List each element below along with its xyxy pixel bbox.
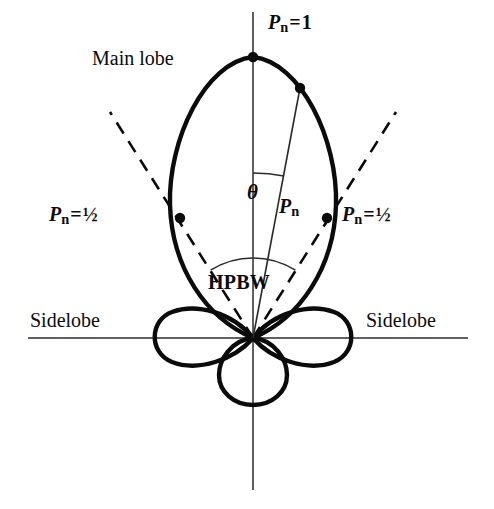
half-power-marker-left xyxy=(175,213,185,223)
equals-sign: = xyxy=(69,203,82,225)
pn-subscript: n xyxy=(291,203,299,219)
theta-angle-label: θ xyxy=(247,182,258,203)
theta-angle-arc xyxy=(253,173,284,176)
peak-value: 1 xyxy=(302,11,312,33)
radius-marker xyxy=(295,83,305,93)
main-lobe-label: Main lobe xyxy=(92,48,174,68)
sidelobe-left-label: Sidelobe xyxy=(30,310,100,330)
theta-symbol: θ xyxy=(247,180,258,204)
hpbw-ray-left xyxy=(110,112,253,338)
pattern-canvas xyxy=(0,0,494,509)
equals-sign: = xyxy=(288,11,301,33)
radiation-pattern-figure: Main lobe Sidelobe Sidelobe HPBW Pn=1 Pn… xyxy=(0,0,494,509)
peak-power-label: Pn=1 xyxy=(268,12,312,35)
half-power-label-left: Pn=½ xyxy=(49,204,98,227)
pn-symbol: P xyxy=(49,203,61,225)
sidelobe-left-outline xyxy=(155,309,253,366)
peak-marker xyxy=(248,52,258,62)
half-power-value: ½ xyxy=(83,203,98,225)
half-power-label-right: Pn=½ xyxy=(342,204,391,227)
pn-symbol: P xyxy=(279,195,291,217)
axes-group xyxy=(28,12,468,490)
hpbw-label: HPBW xyxy=(208,272,270,292)
pn-symbol: P xyxy=(268,11,280,33)
sidelobe-right-label: Sidelobe xyxy=(366,310,436,330)
equals-sign: = xyxy=(362,203,375,225)
pn-radius-label: Pn xyxy=(279,196,299,219)
pn-symbol: P xyxy=(342,203,354,225)
half-power-value: ½ xyxy=(376,203,391,225)
sidelobe-right-outline xyxy=(253,309,351,366)
half-power-marker-right xyxy=(322,213,332,223)
